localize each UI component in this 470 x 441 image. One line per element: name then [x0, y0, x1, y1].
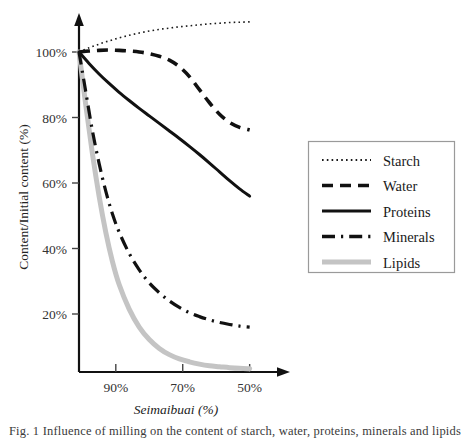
y-axis-arrowhead: [74, 13, 84, 26]
y-axis-tick-labels: 20%40%60%80%100%: [36, 45, 68, 322]
legend-label-water: Water: [383, 178, 417, 194]
y-tick-label: 80%: [42, 111, 67, 126]
figure-container: 20%40%60%80%100% 90%70%50% Content/Initi…: [0, 0, 470, 441]
x-tick-label: 50%: [237, 380, 262, 395]
x-axis-tick-labels: 90%70%50%: [103, 380, 262, 395]
chart-canvas: 20%40%60%80%100% 90%70%50% Content/Initi…: [0, 0, 470, 441]
legend-label-proteins: Proteins: [383, 204, 431, 220]
y-tick-label: 60%: [42, 176, 67, 191]
series-line-proteins: [79, 52, 250, 196]
data-series-group: [79, 22, 250, 369]
series-line-lipids: [79, 52, 250, 369]
series-line-water: [79, 50, 250, 130]
legend-box: [309, 142, 455, 273]
legend-label-minerals: Minerals: [383, 229, 435, 245]
figure-caption: Fig. 1 Influence of milling on the conte…: [0, 424, 470, 441]
legend-label-lipids: Lipids: [383, 255, 420, 271]
series-line-minerals: [79, 52, 250, 327]
x-tick-label: 70%: [170, 380, 195, 395]
legend-label-starch: Starch: [383, 153, 421, 169]
y-axis-title: Content/Initial content (%): [16, 124, 31, 269]
x-axis-title: Seimaibuai (%): [134, 402, 219, 417]
x-tick-label: 90%: [103, 380, 128, 395]
y-tick-label: 40%: [42, 242, 67, 257]
x-axis-arrowhead: [277, 367, 290, 377]
y-tick-label: 100%: [36, 45, 68, 60]
y-tick-label: 20%: [42, 307, 67, 322]
legend: StarchWaterProteinsMineralsLipids: [309, 142, 455, 273]
series-line-starch: [79, 22, 250, 52]
